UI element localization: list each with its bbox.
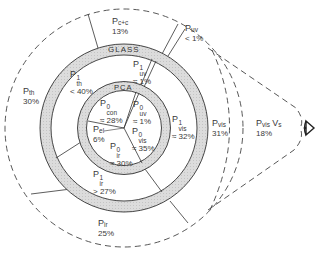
- label-p1-uv: P1uv ≈ 1%: [133, 60, 151, 86]
- label-p-cc: Pc+c 13%: [112, 17, 128, 36]
- pca-label: PCA: [114, 83, 132, 92]
- label-p-vis: Pvis 31%: [212, 119, 228, 138]
- eye-cone-lower: [208, 128, 302, 210]
- label-p1-ir: P1ir > 27%: [93, 170, 116, 196]
- divider-th1-ir1: [56, 142, 81, 158]
- label-p0-con: P0con ≈ 28%: [100, 99, 123, 125]
- label-p0-vis: P0vis ≈ 35%: [132, 127, 155, 153]
- label-p0-uv: P0uv ≈ 1%: [133, 100, 151, 126]
- glass-label: GLASS: [108, 45, 140, 54]
- divider-ir1-vis1: [145, 169, 162, 192]
- divider-cc-th: [88, 14, 98, 48]
- label-p1-vis: P1vis ≈ 32%: [172, 115, 195, 141]
- label-p-vis-vs: Pvis Vs 18%: [256, 119, 281, 138]
- label-p-uv: Puv < 1%: [185, 24, 203, 43]
- pel-pointer: [104, 128, 124, 131]
- label-p-th: Pth 30%: [23, 87, 39, 106]
- divider-cc-uv: [162, 24, 178, 54]
- divider-uv-vis: [168, 29, 185, 56]
- label-p1-th: P1th < 40%: [70, 70, 93, 96]
- divider-th-ir: [31, 189, 71, 194]
- label-p-el: Pel 6%: [93, 125, 105, 144]
- label-p0-ir: P0ir ≈ 30%: [110, 142, 133, 168]
- divider-ir-vis: [170, 201, 188, 223]
- eye-icon: [304, 121, 314, 135]
- label-p-ir: Pir 25%: [98, 219, 114, 238]
